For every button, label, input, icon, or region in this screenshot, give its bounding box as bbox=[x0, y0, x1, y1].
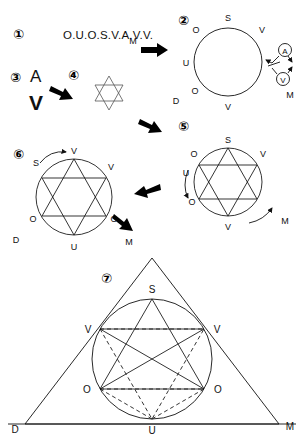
panel7-label-upper-left: V bbox=[85, 324, 92, 335]
panel5-label-lower-left: O bbox=[188, 197, 195, 207]
panel7-triangle bbox=[25, 258, 279, 424]
panel7-labels: S V V O O U D M bbox=[11, 284, 294, 436]
panel6-label-outer-lower-left: D bbox=[13, 235, 20, 245]
panel7-figure bbox=[8, 258, 296, 424]
panel6-label-upper-right: V bbox=[108, 162, 114, 172]
panel7-label-corner-right: M bbox=[286, 421, 294, 432]
panel2-label-left: U bbox=[183, 58, 190, 68]
panel6-label-top: V bbox=[71, 146, 77, 156]
panel2-label-top: S bbox=[225, 13, 231, 23]
panel7-label-bottom: U bbox=[148, 425, 155, 436]
panel2-callout-group: A V bbox=[266, 44, 292, 86]
panel6-label-upper-left: S bbox=[33, 158, 39, 168]
arrow-1-to-2 bbox=[141, 43, 168, 57]
panel7-dashed-o-to-u-right bbox=[152, 389, 204, 419]
panel5-label-upper-right: V bbox=[260, 149, 266, 159]
circled-a-label: A bbox=[282, 47, 288, 56]
callout-connector-a bbox=[266, 56, 279, 63]
panel7-label-lower-right: O bbox=[214, 384, 222, 395]
panel7-solid-up-triangle bbox=[100, 299, 204, 389]
panel6-figure bbox=[36, 159, 112, 235]
diagram-vector-layer: M S O V U O V D M A V bbox=[0, 0, 303, 440]
panel5-label-top: S bbox=[225, 135, 231, 145]
panel2-label-bottom: V bbox=[225, 102, 231, 112]
panel2-label-outer-lower-right: M bbox=[286, 90, 294, 100]
panel7-label-upper-right: V bbox=[214, 324, 221, 335]
arrow-1-to-2-label: M bbox=[129, 36, 137, 46]
callout-connector-v bbox=[272, 68, 277, 74]
panel7-dashed-o-to-u-left bbox=[100, 389, 152, 419]
panel2-circle bbox=[194, 28, 262, 96]
arrow-2-to-5 bbox=[138, 119, 162, 133]
circled-v-label: V bbox=[280, 76, 286, 85]
panel2-label-lower-left: O bbox=[191, 86, 198, 96]
panel7-label-apex: S bbox=[149, 284, 156, 295]
panel5-curved-arrow-right bbox=[249, 208, 272, 223]
panel7-label-lower-left: O bbox=[83, 384, 91, 395]
panel2-label-upper-left: O bbox=[192, 25, 199, 35]
panel5-labels: S O V U O V M bbox=[183, 135, 289, 232]
panel6-label-bottom: U bbox=[71, 242, 78, 252]
callout-arrow-out-v bbox=[288, 67, 292, 73]
panel2-label-upper-right: V bbox=[259, 25, 265, 35]
arrow-5-to-6 bbox=[134, 184, 161, 198]
panel5-label-outer-right: M bbox=[281, 216, 289, 226]
callout-bracket bbox=[268, 62, 280, 66]
panel4-hexagram bbox=[95, 76, 123, 110]
callout-arrow-out-a bbox=[288, 56, 292, 62]
arrow-3-to-4 bbox=[49, 86, 73, 100]
panel5-figure bbox=[194, 148, 262, 216]
panel2-label-outer-lower-left: D bbox=[173, 96, 180, 106]
figure-canvas: ① O.U.O.S.V.A.V.V. ③ A V ④ ② ⑤ ⑥ ⑦ M bbox=[0, 0, 303, 440]
panel5-label-bottom: V bbox=[225, 222, 231, 232]
panel6-label-left: O bbox=[29, 214, 36, 224]
panel5-label-upper-left: O bbox=[190, 149, 197, 159]
panel7-dashed-down-triangle bbox=[100, 329, 204, 419]
panel6-label-outer-lower-right: M bbox=[125, 237, 133, 247]
panel2-labels: S O V U O V D M bbox=[173, 13, 294, 112]
panel7-label-corner-left: D bbox=[11, 424, 18, 435]
